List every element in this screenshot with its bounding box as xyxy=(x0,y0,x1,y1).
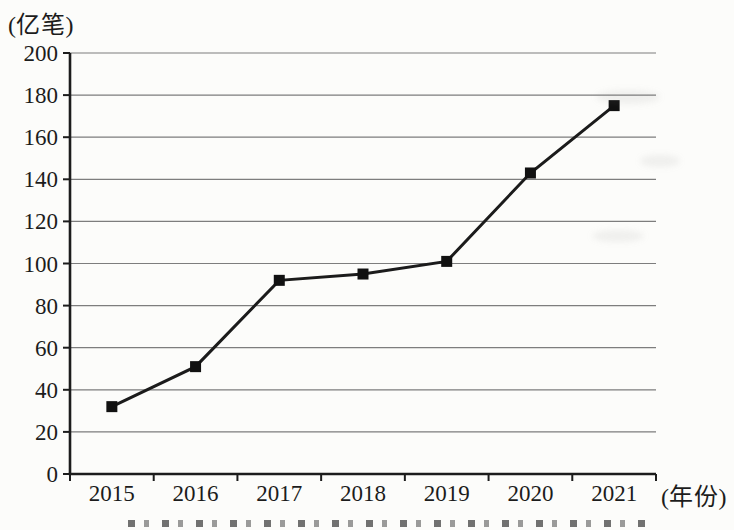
data-point-marker xyxy=(525,167,536,178)
y-tick-label: 80 xyxy=(35,294,58,319)
y-tick-label: 0 xyxy=(47,462,59,487)
chart-page: (亿笔) 02040608010012014016018020020152016… xyxy=(0,0,734,530)
y-tick-label: 140 xyxy=(24,167,59,192)
scan-smudge xyxy=(640,155,680,167)
data-point-marker xyxy=(441,256,452,267)
data-point-marker xyxy=(190,361,201,372)
y-tick-label: 60 xyxy=(35,336,58,361)
data-point-marker xyxy=(106,401,117,412)
x-axis-unit-label: (年份) xyxy=(661,477,727,512)
x-tick-label: 2019 xyxy=(424,481,470,506)
y-tick-label: 160 xyxy=(24,125,59,150)
scan-smudge xyxy=(596,90,660,104)
line-chart: 0204060801001201401601802002015201620172… xyxy=(0,0,734,530)
x-tick-label: 2016 xyxy=(173,481,219,506)
x-tick-label: 2017 xyxy=(256,481,302,506)
data-point-marker xyxy=(358,269,369,280)
data-point-marker xyxy=(274,275,285,286)
cropped-caption-top-edge xyxy=(128,520,645,527)
x-tick-label: 2018 xyxy=(340,481,386,506)
y-tick-label: 40 xyxy=(35,378,58,403)
y-tick-label: 200 xyxy=(24,41,59,66)
y-tick-label: 20 xyxy=(35,420,58,445)
x-tick-label: 2021 xyxy=(591,481,637,506)
y-tick-label: 120 xyxy=(24,209,59,234)
y-tick-label: 180 xyxy=(24,83,59,108)
y-tick-label: 100 xyxy=(24,252,59,277)
scan-smudge xyxy=(592,230,644,242)
x-tick-label: 2020 xyxy=(507,481,553,506)
x-tick-label: 2015 xyxy=(89,481,135,506)
data-line xyxy=(112,106,614,407)
